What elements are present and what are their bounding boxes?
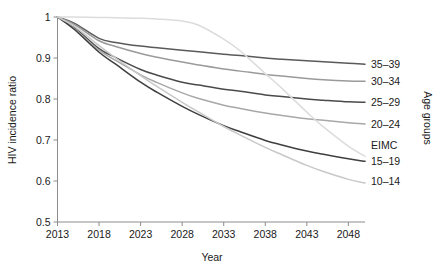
series-line-15-19 <box>58 17 366 161</box>
legend-title: Age groups <box>422 91 434 145</box>
y-tick-label: 1 <box>45 11 51 23</box>
x-tick-label: 2048 <box>337 228 361 240</box>
x-tick-label: 2028 <box>170 228 194 240</box>
x-axis: 20132018202320282033203820432048 <box>46 222 365 240</box>
series-label-20-24: 20–24 <box>371 118 400 130</box>
series-label-eimc: EIMC <box>371 139 398 151</box>
x-axis-title: Year <box>201 251 223 263</box>
series-lines <box>58 17 366 183</box>
x-tick-label: 2013 <box>46 228 70 240</box>
y-tick-label: 0.8 <box>36 93 51 105</box>
series-labels: 35–3930–3425–2920–2415–19EIMC10–14 <box>371 58 400 187</box>
line-chart: 0.50.60.70.80.91 20132018202320282033203… <box>0 0 434 266</box>
x-tick-label: 2043 <box>295 228 319 240</box>
series-line-20-24 <box>58 17 366 124</box>
series-line-25-29 <box>58 17 366 102</box>
y-tick-label: 0.7 <box>36 134 51 146</box>
x-tick-label: 2023 <box>129 228 153 240</box>
series-label-35-39: 35–39 <box>371 58 400 70</box>
y-tick-label: 0.5 <box>36 216 51 228</box>
x-tick-label: 2033 <box>212 228 236 240</box>
y-axis-title: HIV incidence ratio <box>6 76 18 164</box>
series-label-30-34: 30–34 <box>371 75 400 87</box>
series-label-15-19: 15–19 <box>371 155 400 167</box>
series-line-35-39 <box>58 17 366 64</box>
series-label-25-29: 25–29 <box>371 96 400 108</box>
chart-figure: 0.50.60.70.80.91 20132018202320282033203… <box>0 0 434 266</box>
y-axis: 0.50.60.70.80.91 <box>36 11 58 228</box>
x-tick-label: 2038 <box>254 228 278 240</box>
x-tick-label: 2018 <box>87 228 111 240</box>
y-tick-label: 0.9 <box>36 52 51 64</box>
y-tick-label: 0.6 <box>36 175 51 187</box>
series-label-10-14: 10–14 <box>371 175 400 187</box>
